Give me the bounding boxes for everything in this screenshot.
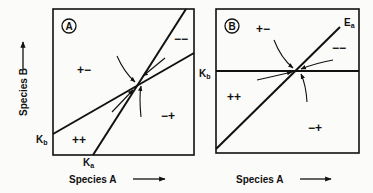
region-label-upper-left: +− <box>77 63 91 77</box>
x-axis-label: Species A <box>69 174 116 185</box>
region-label-lower-right: −+ <box>161 109 175 123</box>
kb-intercept-label: Kb <box>36 134 48 146</box>
svg-text:B: B <box>228 21 235 32</box>
y-axis-label: Species B <box>18 68 29 116</box>
isocline-a-line <box>93 9 186 155</box>
region-label-upper-left: +− <box>256 22 270 36</box>
panel-b-badge: B <box>225 19 239 33</box>
region-label-upper-right: −− <box>332 41 346 55</box>
region-label-lower-left: ++ <box>227 90 241 104</box>
region-label-lower-left: ++ <box>72 133 86 147</box>
panel-a-badge: A <box>62 19 76 33</box>
isocline-figure: A +− −− ++ −+ Kb Ka Species B Species A <box>0 0 373 193</box>
panel-a: A +− −− ++ −+ Kb Ka Species B Species A <box>18 9 194 185</box>
x-axis-label: Species A <box>236 174 283 185</box>
kb-intercept-label: Kb <box>199 68 211 80</box>
trajectory-arrow-icon <box>140 86 141 117</box>
trajectory-arrow-icon <box>117 56 135 82</box>
trajectory-arrow-icon <box>274 40 293 68</box>
ka-intercept-label: Ka <box>83 157 94 169</box>
svg-text:A: A <box>65 21 72 32</box>
region-label-upper-right: −− <box>174 32 188 46</box>
svg-text:Species B: Species B <box>18 68 29 116</box>
trajectory-arrow-icon <box>301 74 307 102</box>
panel-b: B +− −− ++ −+ Kb Ea Species A <box>199 9 359 185</box>
ea-line-label: Ea <box>344 17 355 29</box>
region-label-lower-right: −+ <box>308 121 322 135</box>
